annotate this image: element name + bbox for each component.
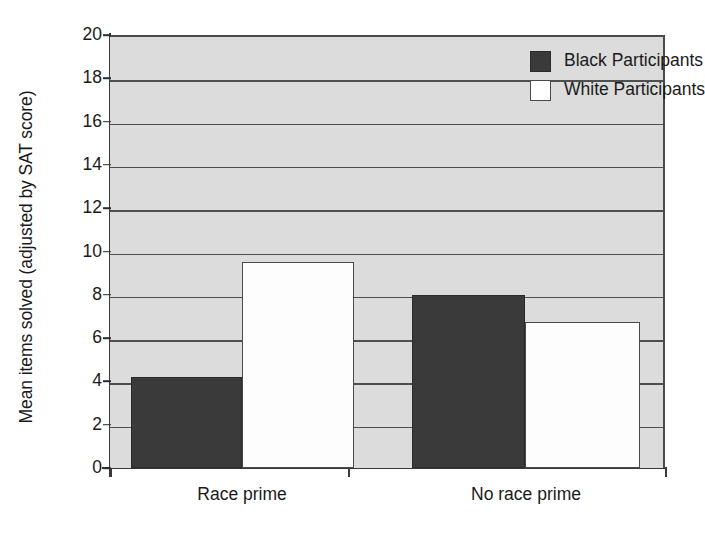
y-axis-tick-label: 6	[52, 329, 102, 347]
y-axis-tick-label: 18	[52, 70, 102, 88]
legend-swatch-black-participants	[530, 51, 551, 72]
y-axis-tick-mark	[103, 164, 111, 166]
gridline	[110, 124, 663, 126]
y-axis-tick-label: 12	[52, 199, 102, 217]
y-axis-tick-label: 0	[52, 459, 102, 477]
x-axis-tick-mark	[665, 468, 667, 477]
bar-white-participants-race-prime	[242, 262, 354, 468]
y-axis-tick-mark	[103, 251, 111, 253]
y-axis-tick-labels: 20181614121086420	[52, 35, 102, 468]
y-axis-tick-mark	[103, 78, 111, 80]
bar-white-participants-no-race-prime	[525, 322, 640, 468]
y-axis-tick-mark	[103, 337, 111, 339]
gridline	[110, 167, 663, 169]
y-axis-tick-label: 8	[52, 286, 102, 304]
plot-area: Black ParticipantsWhite Participants	[110, 35, 665, 468]
y-axis-tick-mark	[103, 121, 111, 123]
y-axis-tick-mark	[103, 424, 111, 426]
y-axis-tick-label: 2	[52, 416, 102, 434]
y-axis-tick-mark	[103, 294, 111, 296]
x-axis-tick-mark	[348, 468, 350, 477]
y-axis-tick-label: 10	[52, 243, 102, 261]
bar-black-participants-race-prime	[131, 377, 242, 468]
legend-item: White Participants	[530, 78, 705, 102]
legend-label: Black Participants	[564, 52, 703, 70]
gridline	[110, 210, 663, 212]
y-axis-title: Mean items solved (adjusted by SAT score…	[16, 37, 40, 477]
y-axis-tick-label: 20	[52, 26, 102, 44]
gridline	[110, 254, 663, 256]
y-axis-tick-mark	[103, 34, 111, 36]
x-axis-category-label: Race prime	[197, 484, 286, 505]
bar-black-participants-no-race-prime	[412, 295, 525, 468]
legend-item: Black Participants	[530, 49, 705, 73]
legend-label: White Participants	[564, 81, 705, 99]
chart-legend: Black ParticipantsWhite Participants	[530, 49, 705, 102]
legend-swatch-white-participants	[530, 80, 551, 101]
y-axis-tick-label: 16	[52, 113, 102, 131]
y-axis-tick-mark	[103, 467, 111, 469]
y-axis-tick-mark	[103, 381, 111, 383]
x-axis-tick-mark	[110, 468, 112, 477]
gridline	[110, 297, 663, 299]
y-axis-tick-label: 14	[52, 156, 102, 174]
y-axis-tick-label: 4	[52, 373, 102, 391]
y-axis-tick-mark	[103, 207, 111, 209]
x-axis-category-label: No race prime	[471, 484, 581, 505]
